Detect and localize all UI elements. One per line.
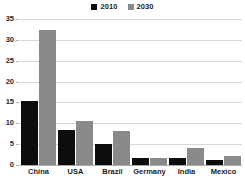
legend-label: 2030 xyxy=(137,3,154,11)
bar[interactable] xyxy=(150,158,167,165)
legend-entry[interactable]: 2030 xyxy=(128,3,154,11)
bar-group xyxy=(205,19,242,165)
bar-group xyxy=(94,19,131,165)
plot-area: 05101520253035 xyxy=(20,19,242,165)
x-axis-tick-label: China xyxy=(28,168,49,176)
x-axis-tick-label: Brazil xyxy=(102,168,122,176)
y-axis-tick-label: 0 xyxy=(10,161,14,169)
y-axis-tick xyxy=(16,165,19,166)
y-axis-tick-label: 5 xyxy=(10,140,14,148)
legend-swatch-icon xyxy=(128,4,134,10)
y-axis-tick xyxy=(16,61,19,62)
y-axis-tick xyxy=(16,40,19,41)
bar[interactable] xyxy=(132,158,149,165)
bar[interactable] xyxy=(39,30,56,165)
bar[interactable] xyxy=(95,144,112,165)
legend-entry[interactable]: 2010 xyxy=(91,3,117,11)
bar[interactable] xyxy=(206,160,223,165)
y-axis-tick-label: 35 xyxy=(6,15,14,23)
bar-group xyxy=(20,19,57,165)
legend-swatch-icon xyxy=(91,4,97,10)
x-axis-tick-label: Germany xyxy=(133,168,166,176)
bar-chart: 20102030 05101520253035 ChinaUSABrazilGe… xyxy=(0,0,245,183)
y-axis-tick xyxy=(16,123,19,124)
x-axis-tick-label: India xyxy=(178,168,196,176)
bar-group xyxy=(168,19,205,165)
y-axis-tick-label: 15 xyxy=(6,99,14,107)
y-axis-tick xyxy=(16,102,19,103)
bar[interactable] xyxy=(58,130,75,165)
bar[interactable] xyxy=(169,158,186,165)
x-axis-tick-label: USA xyxy=(68,168,84,176)
legend-label: 2010 xyxy=(100,3,117,11)
y-axis-tick-label: 20 xyxy=(6,78,14,86)
y-axis-tick-label: 10 xyxy=(6,120,14,128)
bar[interactable] xyxy=(21,101,38,165)
y-axis-tick-label: 30 xyxy=(6,36,14,44)
bar[interactable] xyxy=(224,156,241,165)
x-axis-tick-label: Mexico xyxy=(211,168,236,176)
x-axis-labels: ChinaUSABrazilGermanyIndiaMexico xyxy=(20,168,242,182)
y-axis-tick xyxy=(16,144,19,145)
y-axis-tick xyxy=(16,82,19,83)
bar[interactable] xyxy=(113,131,130,165)
y-axis-tick xyxy=(16,19,19,20)
bar-series-container xyxy=(20,19,242,165)
bar-group xyxy=(57,19,94,165)
x-axis-line xyxy=(20,165,242,166)
y-axis-tick-label: 25 xyxy=(6,57,14,65)
chart-legend: 20102030 xyxy=(0,1,245,13)
bar[interactable] xyxy=(187,148,204,165)
bar-group xyxy=(131,19,168,165)
bar[interactable] xyxy=(76,121,93,165)
